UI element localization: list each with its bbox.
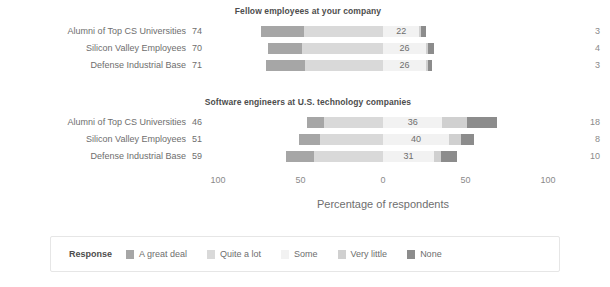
chart-row: Silicon Valley Employees70426: [0, 40, 610, 57]
bar-segment-very-little: [442, 117, 467, 128]
legend-title: Response: [69, 249, 112, 259]
legend-label: Quite a lot: [220, 249, 261, 259]
legend-items: A great dealQuite a lotSomeVery littleNo…: [126, 249, 462, 259]
row-label: Silicon Valley Employees: [0, 134, 186, 144]
row-label: Defense Industrial Base: [0, 60, 186, 70]
bar-segment-none: [428, 43, 435, 54]
bar-segment-quite-a-lot: [302, 43, 383, 54]
bar-segment-some: [383, 60, 426, 71]
axis-tick: 100: [210, 175, 225, 185]
bar-segment-some: [383, 43, 426, 54]
row-bar: 26: [218, 57, 548, 74]
legend-swatch: [207, 250, 215, 259]
bar-segment-a-great-deal: [307, 117, 324, 128]
legend-item[interactable]: Very little: [338, 249, 388, 259]
legend-item[interactable]: Quite a lot: [207, 249, 261, 259]
panel-title-text: Software engineers at U.S. technology co…: [205, 97, 411, 107]
row-right-total: 8: [560, 134, 600, 144]
bar-segment-none: [467, 117, 497, 128]
diverging-bar-chart: Fellow employees at your company Alumni …: [0, 0, 610, 287]
bar-segment-none: [461, 134, 474, 145]
row-right-total: 18: [560, 117, 600, 127]
chart-row: Defense Industrial Base71326: [0, 57, 610, 74]
legend-swatch: [338, 250, 346, 259]
bar-segment-quite-a-lot: [314, 151, 383, 162]
row-left-total: 70: [192, 43, 218, 53]
bar-segment-quite-a-lot: [320, 134, 383, 145]
row-right-total: 4: [560, 43, 600, 53]
legend-swatch: [281, 250, 289, 259]
bar-segment-quite-a-lot: [304, 26, 383, 37]
legend-label: Very little: [351, 249, 388, 259]
legend-label: None: [420, 249, 442, 259]
legend-label: Some: [294, 249, 318, 259]
row-label: Defense Industrial Base: [0, 151, 186, 161]
legend-item[interactable]: None: [407, 249, 442, 259]
chart-row: Alumni of Top CS Universities461836: [0, 114, 610, 131]
row-right-total: 3: [560, 26, 600, 36]
axis-tick: 0: [380, 175, 385, 185]
row-right-total: 10: [560, 151, 600, 161]
bar-segment-some: [383, 134, 449, 145]
legend-swatch: [126, 250, 134, 259]
row-label: Silicon Valley Employees: [0, 43, 186, 53]
bar-segment-a-great-deal: [261, 26, 304, 37]
axis-tick: 50: [460, 175, 470, 185]
chart-row: Defense Industrial Base591031: [0, 148, 610, 165]
x-axis-title: Percentage of respondents: [218, 198, 548, 210]
row-bar: 31: [218, 148, 548, 165]
row-bar: 22: [218, 23, 548, 40]
legend-item[interactable]: A great deal: [126, 249, 187, 259]
bar-segment-very-little: [449, 134, 461, 145]
panel-title: Software engineers at U.S. technology co…: [0, 97, 610, 107]
bar-segment-a-great-deal: [286, 151, 314, 162]
legend-item[interactable]: Some: [281, 249, 318, 259]
bar-segment-very-little: [434, 151, 441, 162]
bar-segment-a-great-deal: [268, 43, 303, 54]
chart-row: Alumni of Top CS Universities74322: [0, 23, 610, 40]
bar-segment-none: [428, 60, 433, 71]
legend-swatch: [407, 250, 415, 259]
row-left-total: 51: [192, 134, 218, 144]
panel-title: Fellow employees at your company: [0, 6, 610, 16]
row-left-total: 46: [192, 117, 218, 127]
bar-segment-some: [383, 117, 442, 128]
bar-segment-some: [383, 151, 434, 162]
panel-rows: Alumni of Top CS Universities461836Silic…: [0, 114, 610, 165]
row-right-total: 3: [560, 60, 600, 70]
legend: Response A great dealQuite a lotSomeVery…: [50, 236, 560, 272]
bar-segment-a-great-deal: [266, 60, 306, 71]
row-left-total: 74: [192, 26, 218, 36]
row-left-total: 71: [192, 60, 218, 70]
row-bar: 36: [218, 114, 548, 131]
bar-segment-none: [441, 151, 458, 162]
x-axis: 10050050100: [218, 175, 548, 187]
bar-segment-a-great-deal: [299, 134, 320, 145]
chart-row: Silicon Valley Employees51840: [0, 131, 610, 148]
row-bar: 40: [218, 131, 548, 148]
bar-segment-quite-a-lot: [305, 60, 383, 71]
row-label: Alumni of Top CS Universities: [0, 26, 186, 36]
panel-title-text: Fellow employees at your company: [235, 6, 381, 16]
axis-tick: 50: [295, 175, 305, 185]
bar-segment-some: [383, 26, 419, 37]
legend-label: A great deal: [139, 249, 187, 259]
row-left-total: 59: [192, 151, 218, 161]
bar-segment-none: [421, 26, 426, 37]
bar-segment-quite-a-lot: [324, 117, 383, 128]
row-bar: 26: [218, 40, 548, 57]
row-label: Alumni of Top CS Universities: [0, 117, 186, 127]
axis-tick: 100: [540, 175, 555, 185]
panel-rows: Alumni of Top CS Universities74322Silico…: [0, 23, 610, 74]
